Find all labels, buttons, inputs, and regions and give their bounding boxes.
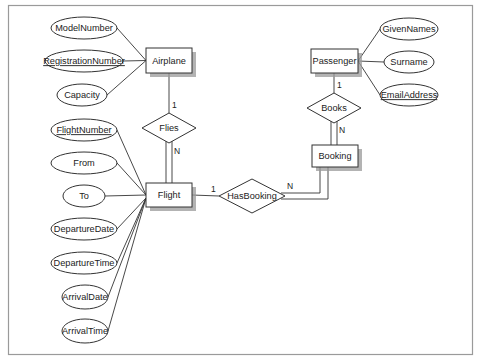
attribute-label: Surname (390, 57, 427, 67)
attribute-label: From (73, 158, 95, 168)
relationship-label: HasBooking (227, 191, 277, 201)
attribute-givennames: GivenNames (380, 18, 438, 40)
entity-airplane: Airplane (146, 48, 196, 77)
attribute-label: ArrivalTime (62, 326, 108, 336)
attribute-label: ArrivalDate (62, 292, 107, 302)
attribute-capacity: Capacity (57, 84, 107, 106)
attribute-from: From (51, 152, 117, 174)
cardinality-hasbooking-booking: N (287, 181, 293, 191)
attribute-departuredate: DepartureDate (51, 218, 117, 240)
attribute-label: To (79, 191, 89, 201)
attribute-label: ModelNumber (55, 23, 113, 33)
entity-label: Airplane (152, 56, 186, 66)
key-attribute-label: RegistrationNumber (43, 56, 125, 66)
key-attribute-label: FlightNumber (56, 125, 111, 135)
attribute-arrivaltime: ArrivalTime (62, 319, 108, 343)
relationship-label: Flies (159, 123, 179, 133)
attribute-label: DepartureDate (54, 224, 114, 234)
entity-label: Flight (158, 190, 181, 200)
cardinality-flies-flight: N (174, 146, 180, 156)
attribute-connector (123, 61, 146, 62)
attribute-label: Capacity (64, 90, 100, 100)
attribute-modelnumber: ModelNumber (51, 17, 117, 39)
cardinality-books-passenger: 1 (337, 80, 342, 90)
entity-passenger: Passenger (311, 49, 362, 77)
entity-label: Booking (318, 151, 351, 161)
entity-booking: Booking (312, 145, 362, 171)
key-attribute-label: EmailAddress (381, 90, 438, 100)
relationship-label: Books (321, 103, 347, 113)
attribute-emailaddress: EmailAddress (380, 84, 438, 106)
cardinality-flies-airplane: 1 (172, 100, 177, 110)
attribute-registrationnumber: RegistrationNumber (43, 50, 125, 72)
cardinality-books-booking: N (339, 125, 345, 135)
entity-flight: Flight (146, 183, 196, 211)
entity-label: Passenger (313, 56, 357, 66)
attribute-label: DepartureTime (54, 258, 115, 268)
attribute-flightnumber: FlightNumber (51, 119, 117, 141)
attribute-departuretime: DepartureTime (51, 252, 117, 274)
attribute-label: GivenNames (382, 24, 436, 34)
cardinality-hasbooking-flight: 1 (211, 184, 216, 194)
attribute-arrivaldate: ArrivalDate (62, 285, 108, 309)
attribute-to: To (63, 185, 105, 207)
attribute-surname: Surname (384, 51, 434, 73)
er-diagram: ModelNumberRegistrationNumberCapacityGiv… (0, 0, 479, 362)
